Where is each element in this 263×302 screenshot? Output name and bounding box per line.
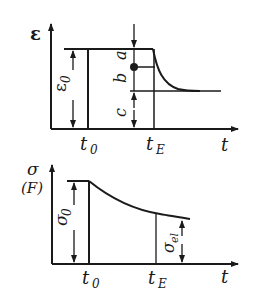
segment-b-label: b xyxy=(111,73,130,83)
top-t0-label: t xyxy=(80,133,88,154)
strain-y-axis-label: ε xyxy=(30,23,41,44)
stress-y-axis-alt-label: (F) xyxy=(21,179,43,197)
bottom-t0-subscript: 0 xyxy=(92,277,100,291)
stress-y-axis-label: σ xyxy=(27,159,39,179)
top-tE-label: t xyxy=(146,133,154,154)
epsilon0-subscript: 0 xyxy=(59,75,73,83)
sigma-el-subscript: el xyxy=(168,232,181,243)
segment-c-label: c xyxy=(111,108,130,117)
stress-relaxation-curve xyxy=(89,181,190,219)
diagram-canvas: ε t ε 0 a b c t 0 t E σ xyxy=(0,0,263,302)
bottom-tE-subscript: E xyxy=(157,277,167,291)
sigma0-subscript: 0 xyxy=(60,208,74,216)
stress-x-axis-label: t xyxy=(221,266,229,287)
strain-time-chart: ε t ε 0 a b c t 0 t E xyxy=(30,23,238,157)
bottom-t0-label: t xyxy=(82,267,90,288)
strain-recovery-curve xyxy=(153,49,200,91)
top-t0-subscript: 0 xyxy=(90,143,98,157)
bottom-tE-label: t xyxy=(148,267,156,288)
stress-time-chart: σ (F) t σ 0 σ el t 0 t E xyxy=(21,159,238,291)
segment-a-label: a xyxy=(111,50,130,60)
strain-x-axis-label: t xyxy=(221,134,229,155)
top-tE-subscript: E xyxy=(155,143,165,157)
measurement-dot xyxy=(130,63,138,71)
epsilon0-label: ε xyxy=(50,83,70,92)
